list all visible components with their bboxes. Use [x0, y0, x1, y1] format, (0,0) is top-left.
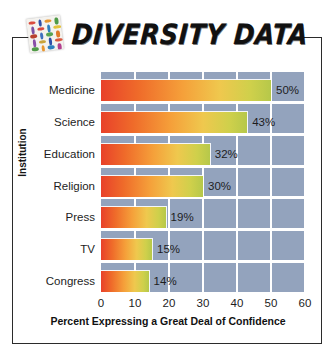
- row-separator: [101, 196, 305, 199]
- x-tick-label: 30: [188, 297, 218, 309]
- x-tick-label: 40: [222, 297, 252, 309]
- plot-area: 50%43%32%30%19%15%14%: [101, 72, 305, 295]
- bar: [101, 144, 210, 165]
- bar-value-label: 43%: [252, 112, 275, 133]
- bar: [101, 112, 247, 133]
- category-label: Religion: [3, 176, 95, 197]
- row-separator: [101, 165, 305, 168]
- bar-value-label: 50%: [276, 80, 299, 101]
- bar-chart: Institution MedicineScienceEducationReli…: [0, 0, 334, 356]
- bar-value-label: 14%: [154, 271, 177, 292]
- row-separator: [101, 133, 305, 136]
- bar-value-label: 19%: [171, 207, 194, 228]
- row-separator: [101, 228, 305, 231]
- category-label: Congress: [3, 271, 95, 292]
- bar: [101, 271, 149, 292]
- row-separator: [101, 292, 305, 295]
- row-separator: [101, 260, 305, 263]
- bar: [101, 176, 203, 197]
- bar-value-label: 30%: [208, 176, 231, 197]
- x-tick-label: 20: [154, 297, 184, 309]
- x-tick-label: 60: [290, 297, 320, 309]
- bar-value-label: 32%: [215, 144, 238, 165]
- x-axis-label: Percent Expressing a Great Deal of Confi…: [28, 315, 308, 328]
- category-label: Science: [3, 112, 95, 133]
- category-label: Medicine: [3, 80, 95, 101]
- row-separator: [101, 101, 305, 104]
- category-label: TV: [3, 239, 95, 260]
- bar: [101, 207, 166, 228]
- x-tick-label: 10: [120, 297, 150, 309]
- bar-value-label: 15%: [157, 239, 180, 260]
- x-tick-label: 50: [256, 297, 286, 309]
- x-tick-label: 0: [86, 297, 116, 309]
- x-axis-tick-labels: 0102030405060: [101, 297, 305, 313]
- bar: [101, 239, 152, 260]
- category-label: Press: [3, 207, 95, 228]
- bar: [101, 80, 271, 101]
- category-label: Education: [3, 144, 95, 165]
- y-axis-tick-labels: MedicineScienceEducationReligionPressTVC…: [1, 72, 95, 295]
